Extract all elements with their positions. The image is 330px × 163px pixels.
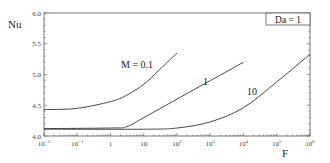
annotation-da: Da = 1 (275, 15, 301, 25)
x-tick-label: 10−1 (71, 139, 84, 148)
series-line-1 (44, 62, 244, 128)
chart: 4.04.55.05.56.010−210−111010210310410510… (0, 0, 330, 163)
y-tick-label: 5.0 (32, 71, 41, 79)
x-tick-label: 104 (239, 139, 249, 148)
x-tick-label: 102 (172, 139, 182, 148)
y-tick-label: 5.5 (32, 40, 41, 48)
plot-area: 4.04.55.05.56.010−210−111010210310410510… (32, 10, 315, 149)
y-tick-label: 4.5 (32, 102, 41, 110)
y-axis-label: Nu (8, 18, 22, 30)
series-line-2 (44, 54, 310, 129)
curve-label-m01: M = 0.1 (121, 59, 153, 70)
series-line-0 (44, 53, 177, 110)
x-tick-label: 10−2 (38, 139, 51, 148)
x-tick-label: 10 (140, 140, 148, 148)
plot-frame (44, 13, 310, 136)
x-tick-label: 105 (272, 139, 282, 148)
curve-label-m1: 1 (203, 76, 208, 87)
x-tick-label: 103 (206, 139, 216, 148)
y-tick-label: 6.0 (32, 10, 41, 18)
x-tick-label: 1 (109, 140, 113, 148)
x-axis-label: F (282, 147, 288, 159)
x-tick-label: 106 (305, 139, 315, 148)
curve-label-m10: 10 (247, 86, 257, 97)
